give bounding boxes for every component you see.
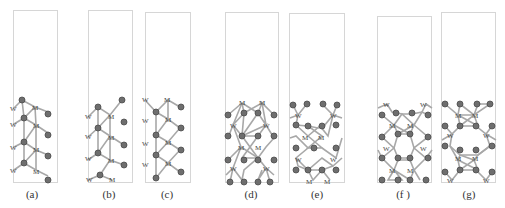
svg-text:M: M [472,112,479,120]
panel-label: (g) [449,188,489,200]
svg-text:M: M [455,112,462,120]
svg-text:M: M [455,155,462,163]
svg-text:W: W [447,177,454,185]
svg-text:W: W [447,132,454,140]
atomic-structure-g: MM WW MM WW [0,0,505,208]
svg-text:M: M [472,155,479,163]
svg-text:W: W [483,177,490,185]
svg-text:W: W [483,132,490,140]
